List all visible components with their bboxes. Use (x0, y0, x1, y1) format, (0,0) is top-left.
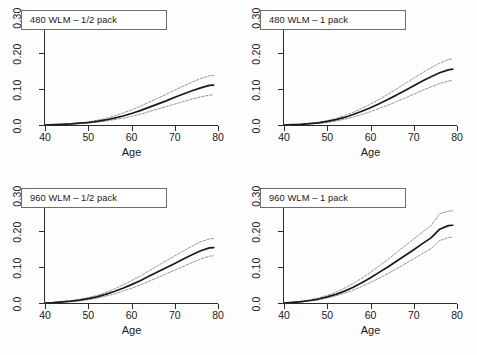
curve-lower-ci (45, 256, 214, 303)
curve-estimate (284, 69, 453, 125)
curve-estimate (45, 248, 214, 303)
figure-canvas: 0.00.100.200.304050607080Age480 WLM – 1/… (0, 0, 477, 355)
curve-lower-ci (284, 237, 453, 303)
curve-estimate (45, 85, 214, 125)
curve-estimate (284, 225, 453, 303)
panel-label-box: 960 WLM – 1/2 pack (21, 188, 167, 208)
curve-upper-ci (45, 239, 214, 303)
panel-960-one: 0.00.100.200.304050607080Age960 WLM – 1 … (239, 178, 477, 355)
curve-upper-ci (284, 59, 453, 125)
curve-lower-ci (45, 95, 214, 125)
curve-upper-ci (284, 211, 453, 303)
panel-label-box: 480 WLM – 1/2 pack (21, 10, 167, 30)
panel-480-half: 0.00.100.200.304050607080Age480 WLM – 1/… (0, 0, 238, 177)
curve-lower-ci (284, 80, 453, 125)
panel-960-half: 0.00.100.200.304050607080Age960 WLM – 1/… (0, 178, 238, 355)
panel-label-box: 960 WLM – 1 pack (260, 188, 406, 208)
panel-label-box: 480 WLM – 1 pack (260, 10, 406, 30)
panel-480-one: 0.00.100.200.304050607080Age480 WLM – 1 … (239, 0, 477, 177)
